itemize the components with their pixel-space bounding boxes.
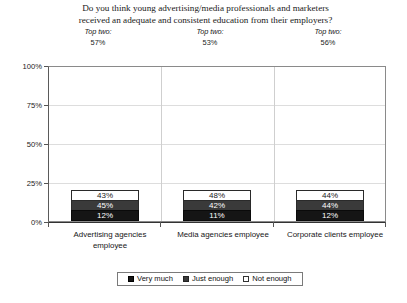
segment-very-much[interactable]: 12% xyxy=(71,210,139,221)
top-two-value: 57% xyxy=(50,38,146,49)
chart-legend: Very much Just enough Not enough xyxy=(117,272,303,286)
y-tick-label-0: 0% xyxy=(4,219,42,227)
x-category-label-advertising: Advertising agencies employee xyxy=(50,230,170,251)
chart-title-line-2: received an adequate and consistent educ… xyxy=(38,15,373,27)
plot-area: 12% 45% 43% 11% 42% 48% 12% xyxy=(48,66,386,222)
y-tick-label-100: 100% xyxy=(4,63,42,71)
segment-not-enough[interactable]: 48% xyxy=(183,190,251,200)
segment-just-enough[interactable]: 42% xyxy=(183,200,251,210)
x-tick-mark-0 xyxy=(48,222,49,227)
segment-value-label: 43% xyxy=(97,191,113,200)
legend-item-not-enough[interactable]: Not enough xyxy=(243,275,291,283)
top-two-label: Top two: xyxy=(50,27,146,38)
x-tick-mark-3 xyxy=(385,222,386,227)
segment-just-enough[interactable]: 45% xyxy=(71,200,139,210)
top-two-annotation-advertising: Top two: 57% xyxy=(50,27,146,48)
x-tick-mark-1 xyxy=(160,222,161,227)
legend-swatch-icon xyxy=(243,276,249,282)
top-two-label: Top two: xyxy=(280,27,376,38)
category-separator-2 xyxy=(274,67,275,221)
top-two-value: 53% xyxy=(162,38,258,49)
bar-corporate-clients-employee[interactable]: 12% 44% 44% xyxy=(296,190,364,221)
segment-just-enough[interactable]: 44% xyxy=(296,200,364,210)
legend-swatch-icon xyxy=(183,276,189,282)
chart-title-line-1: Do you think young advertising/media pro… xyxy=(38,3,373,15)
segment-value-label: 44% xyxy=(322,191,338,200)
x-category-label-corporate: Corporate clients employee xyxy=(275,230,395,241)
top-two-label: Top two: xyxy=(162,27,258,38)
x-category-label-line-1: Media agencies employee xyxy=(163,230,283,241)
segment-not-enough[interactable]: 44% xyxy=(296,190,364,200)
segment-value-label: 12% xyxy=(322,211,338,220)
segment-value-label: 44% xyxy=(322,201,338,210)
x-category-label-media: Media agencies employee xyxy=(163,230,283,241)
legend-label: Very much xyxy=(137,275,173,283)
gridline-25 xyxy=(49,183,385,184)
segment-not-enough[interactable]: 43% xyxy=(71,190,139,200)
segment-value-label: 45% xyxy=(97,201,113,210)
y-tick-label-50: 50% xyxy=(4,141,42,149)
y-tick-label-25: 25% xyxy=(4,180,42,188)
bar-advertising-agencies-employee[interactable]: 12% 45% 43% xyxy=(71,190,139,221)
legend-swatch-icon xyxy=(128,276,134,282)
gridline-50 xyxy=(49,144,385,145)
chart-title: Do you think young advertising/media pro… xyxy=(38,3,373,26)
y-tick-label-75: 75% xyxy=(4,102,42,110)
top-two-annotation-corporate: Top two: 56% xyxy=(280,27,376,48)
segment-value-label: 11% xyxy=(209,211,224,220)
category-separator-1 xyxy=(161,67,162,221)
x-category-label-line-1: Advertising agencies xyxy=(50,230,170,241)
segment-value-label: 42% xyxy=(209,201,225,210)
stacked-bar-chart: Do you think young advertising/media pro… xyxy=(0,0,407,303)
legend-item-just-enough[interactable]: Just enough xyxy=(183,275,233,283)
segment-very-much[interactable]: 12% xyxy=(296,210,364,221)
segment-value-label: 12% xyxy=(97,211,113,220)
legend-label: Not enough xyxy=(252,275,291,283)
bar-media-agencies-employee[interactable]: 11% 42% 48% xyxy=(183,190,251,221)
x-axis-line xyxy=(48,222,386,223)
x-category-label-line-1: Corporate clients employee xyxy=(275,230,395,241)
legend-item-very-much[interactable]: Very much xyxy=(128,275,173,283)
x-tick-mark-2 xyxy=(273,222,274,227)
legend-label: Just enough xyxy=(192,275,233,283)
segment-value-label: 48% xyxy=(209,191,225,200)
top-two-value: 56% xyxy=(280,38,376,49)
top-two-annotation-media: Top two: 53% xyxy=(162,27,258,48)
gridline-75 xyxy=(49,105,385,106)
x-category-label-line-2: employee xyxy=(50,241,170,252)
segment-very-much[interactable]: 11% xyxy=(183,210,251,221)
